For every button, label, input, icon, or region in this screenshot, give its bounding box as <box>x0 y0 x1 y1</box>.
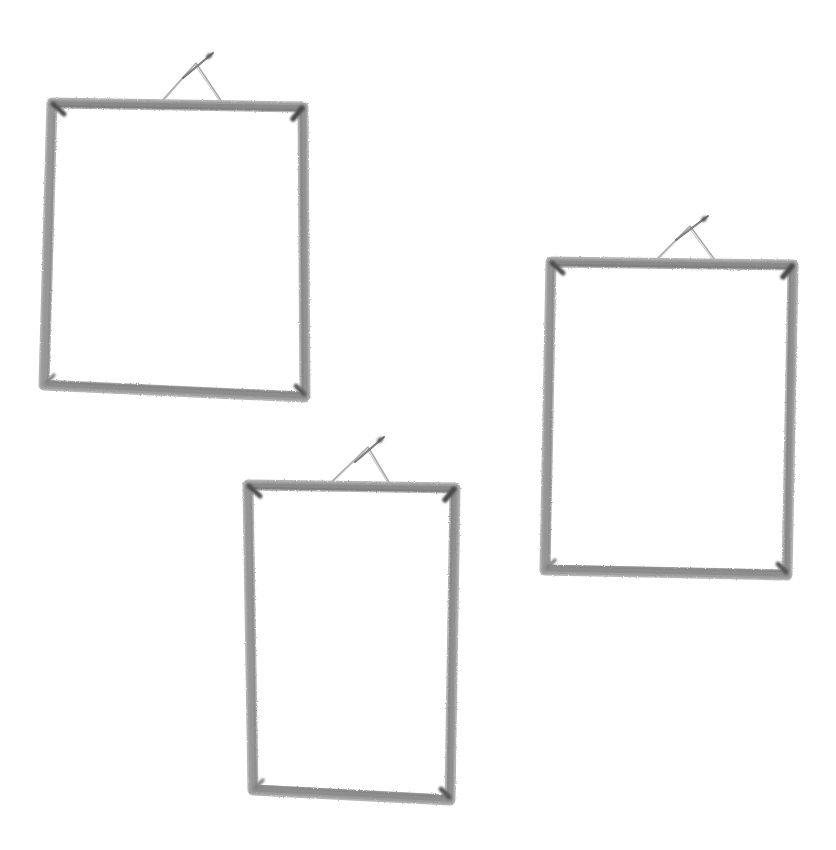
pencil-drawing <box>0 0 836 850</box>
sketch-canvas: Three Empty Picture Frames Hand-drawn gr… <box>0 0 836 850</box>
background <box>0 0 836 850</box>
